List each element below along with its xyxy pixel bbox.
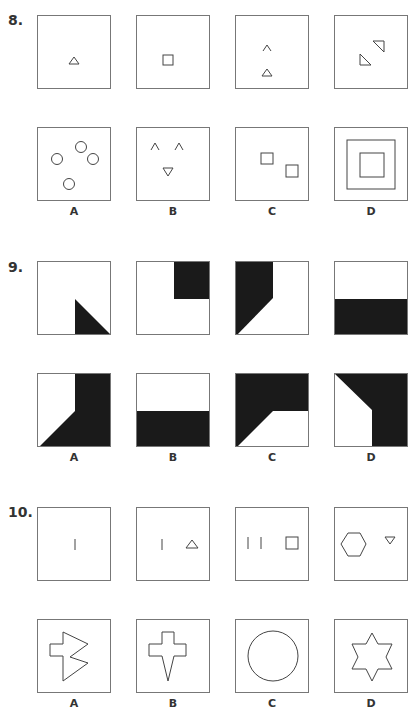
question-number-9: 9. — [8, 259, 23, 275]
q8-figure-1 — [37, 15, 111, 89]
q9-option-a-label: A — [37, 451, 111, 464]
q9-figure-4 — [334, 261, 408, 335]
carets-triangle-icon — [137, 128, 210, 201]
q10-option-a[interactable] — [37, 619, 111, 693]
top-wedge-icon — [236, 374, 309, 447]
q9-option-a[interactable] — [37, 373, 111, 447]
q10-option-c-label: C — [235, 697, 309, 710]
bottom-half-icon — [137, 374, 210, 447]
q10-figure-1 — [37, 507, 111, 581]
bottom-half-icon — [335, 262, 408, 335]
q8-option-d-label: D — [334, 205, 408, 218]
triangle-icon — [38, 16, 111, 89]
q9-figure-2 — [136, 261, 210, 335]
q8-option-a[interactable] — [37, 127, 111, 201]
q8-option-b[interactable] — [136, 127, 210, 201]
left-wedge-icon — [236, 262, 309, 335]
arrow-polygon-icon — [38, 620, 111, 693]
q9-option-b[interactable] — [136, 373, 210, 447]
q10-option-d[interactable] — [334, 619, 408, 693]
q10-option-c[interactable] — [235, 619, 309, 693]
star-icon — [335, 620, 408, 693]
q9-option-c[interactable] — [235, 373, 309, 447]
question-number-8: 8. — [8, 12, 23, 28]
q10-option-a-label: A — [37, 697, 111, 710]
diagonal-triangles-icon — [335, 16, 408, 89]
q8-figure-2 — [136, 15, 210, 89]
circle-icon — [236, 620, 309, 693]
line-triangle-icon — [137, 508, 210, 581]
line-icon — [38, 508, 111, 581]
corner-triangle-icon — [38, 262, 111, 335]
lines-square-icon — [236, 508, 309, 581]
q10-option-d-label: D — [334, 697, 408, 710]
square-icon — [137, 16, 210, 89]
question-number-10: 10. — [8, 504, 33, 520]
caret-triangle-icon — [236, 16, 309, 89]
two-squares-icon — [236, 128, 309, 201]
q10-option-b-label: B — [136, 697, 210, 710]
q9-option-c-label: C — [235, 451, 309, 464]
q9-option-d-label: D — [334, 451, 408, 464]
spiked-cross-icon — [137, 620, 210, 693]
q8-figure-4 — [334, 15, 408, 89]
q8-option-c[interactable] — [235, 127, 309, 201]
q8-figure-3 — [235, 15, 309, 89]
nested-squares-icon — [335, 128, 408, 201]
q10-figure-3 — [235, 507, 309, 581]
q8-option-b-label: B — [136, 205, 210, 218]
right-wedge-icon — [38, 374, 111, 447]
q9-figure-1 — [37, 261, 111, 335]
circles-icon — [38, 128, 111, 201]
hexagon-triangle-icon — [335, 508, 408, 581]
corner-square-icon — [137, 262, 210, 335]
q8-option-d[interactable] — [334, 127, 408, 201]
q9-option-d[interactable] — [334, 373, 408, 447]
top-right-wedge-icon — [335, 374, 408, 447]
q10-figure-2 — [136, 507, 210, 581]
q10-figure-4 — [334, 507, 408, 581]
q10-option-b[interactable] — [136, 619, 210, 693]
q9-figure-3 — [235, 261, 309, 335]
q8-option-c-label: C — [235, 205, 309, 218]
q9-option-b-label: B — [136, 451, 210, 464]
q8-option-a-label: A — [37, 205, 111, 218]
